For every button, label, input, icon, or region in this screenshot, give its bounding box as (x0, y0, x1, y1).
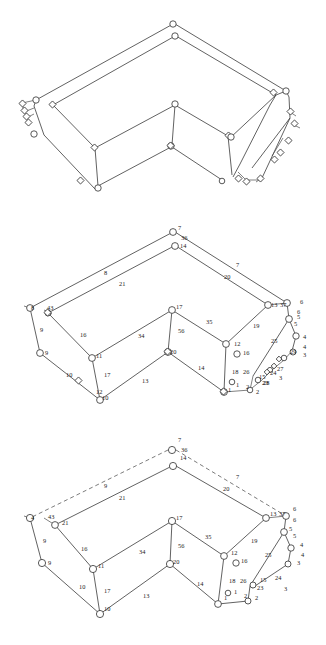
node-label-b10-8: 10 (104, 605, 110, 612)
node-label-b9-6: 9 (48, 559, 51, 566)
node-label-n14-2: 14 (180, 242, 187, 249)
node-label-b4-18: 4 (301, 551, 305, 558)
node-label-n20c-10: 20 (170, 348, 176, 355)
edge-label-56-9: 56 (178, 542, 184, 549)
edge-label-17-7: 17 (104, 587, 111, 594)
edge-label-3-19: 3 (279, 374, 282, 381)
edge-label-8-0: 8 (104, 269, 107, 276)
edges-bottom (24, 450, 291, 614)
edge-label-34-8: 34 (139, 548, 146, 555)
node-label-n13-27: 13 (271, 301, 277, 308)
node-label-n37-28: 37 (280, 301, 287, 308)
edge-label-26-16: 26 (243, 368, 249, 375)
edge-label-19-13: 19 (253, 322, 259, 329)
edge-label-20-3: 20 (224, 273, 230, 280)
edge-label-9-4: 9 (40, 326, 43, 333)
edge-label-24-19: 24 (275, 574, 282, 581)
edge-label-18-15: 18 (229, 577, 235, 584)
wireframe-view-bottom: 7361444321911101720121612152334455661337… (0, 428, 326, 645)
edge-label-16-6: 16 (81, 545, 87, 552)
node-label-b43-4: 43 (48, 513, 54, 520)
node-label-b37-25: 37 (279, 510, 286, 517)
edge-label-14-12: 14 (198, 364, 205, 371)
edge-label-25-14: 25 (265, 551, 271, 558)
node-label-b17-9: 17 (176, 514, 183, 521)
node-label-n9-5: 9 (45, 349, 48, 356)
node-label-n5r-23: 5 (294, 320, 297, 327)
figure-page: 7361484391012111720112161522324272934455… (0, 0, 326, 645)
edge-label-19-13: 19 (251, 537, 257, 544)
node-label-b6-22: 6 (293, 505, 296, 512)
edge-label-13-11: 13 (142, 377, 148, 384)
edge-label-21-1: 21 (119, 494, 125, 501)
edge-label-14-12: 14 (197, 580, 204, 587)
node-label-b14-2: 14 (180, 454, 187, 461)
edge-label-1-17: 1 (234, 588, 237, 595)
edge-label-35-10: 35 (206, 318, 212, 325)
node-label-n6r-25: 6 (300, 298, 303, 305)
wireframe-svg-bottom: 7361444321911101720121612152334455661337… (0, 428, 326, 645)
edge-label-25-14: 25 (271, 337, 277, 344)
node-label-b5b-21: 5 (293, 532, 296, 539)
node-label-b23-16: 23 (257, 584, 263, 591)
wireframe-svg-top (0, 0, 326, 215)
node-label-b36-1: 36 (181, 446, 187, 453)
node-label-n1-11: 1 (228, 386, 231, 393)
edge-label-7-2: 7 (236, 261, 240, 268)
wireframe-svg-middle: 7361484391012111720112161522324272934455… (0, 218, 326, 428)
edge-label-21-1: 21 (119, 280, 125, 287)
node-label-n4r-21: 4 (303, 333, 307, 340)
edge-label-3-20: 3 (284, 585, 287, 592)
node-label-n3r-20: 3 (303, 351, 306, 358)
edge-label-2-18: 2 (244, 592, 247, 599)
node-label-b5-20: 5 (289, 525, 292, 532)
edge-label-56-9: 56 (178, 327, 184, 334)
node-label-b11-7: 11 (98, 562, 104, 569)
edges-top (22, 24, 300, 189)
edge-label-26-16: 26 (240, 577, 246, 584)
node-label-n8L-3: 8 (31, 304, 34, 311)
wireframe-view-top (0, 0, 326, 215)
edges-middle (24, 232, 296, 400)
edge-labels-bottom: 921720910161734563513141925182612243 (43, 473, 287, 599)
edge-label-17-7: 17 (104, 371, 111, 378)
node-label-b4L-3: 4 (31, 514, 35, 521)
node-labels-middle: 7361484391012111720112161522324272934455… (31, 224, 307, 401)
edge-label-28-20: 28 (263, 379, 269, 386)
node-label-n7-0: 7 (178, 224, 182, 231)
node-label-b1-13: 1 (224, 594, 227, 601)
edge-label-9-4: 9 (43, 537, 46, 544)
node-label-b6b-23: 6 (293, 516, 296, 523)
node-label-n27-18: 27 (277, 365, 284, 372)
edge-label-35-10: 35 (205, 533, 211, 540)
edge-label-34-8: 34 (138, 332, 145, 339)
node-label-n17c-9: 17 (176, 303, 183, 310)
node-label-n12r-12: 12 (234, 340, 240, 347)
edge-label-18-15: 18 (232, 368, 238, 375)
node-label-b13-24: 13 (270, 510, 276, 517)
node-label-b15-15: 15 (260, 576, 266, 583)
edge-label-9-0: 9 (104, 482, 107, 489)
edge-label-7-2: 7 (236, 473, 240, 480)
node-label-b4b-19: 4 (300, 541, 304, 548)
edge-label-10-5: 10 (66, 371, 72, 378)
node-label-n43-4: 43 (47, 304, 53, 311)
node-label-n4r2-22: 4 (303, 343, 307, 350)
node-label-n2r-15: 2 (256, 388, 259, 395)
node-label-b3-17: 3 (297, 559, 300, 566)
edge-label-13-11: 13 (143, 592, 149, 599)
nodes-top (19, 21, 298, 191)
edge-label-1-17: 1 (236, 381, 239, 388)
edge-label-2-18: 2 (246, 383, 249, 390)
node-label-b2-14: 2 (255, 594, 258, 601)
node-label-b16-12: 16 (241, 557, 247, 564)
node-label-n12b-7: 12 (96, 388, 102, 395)
edge-label-16-6: 16 (80, 331, 86, 338)
node-label-n10-6: 10 (102, 394, 108, 401)
node-label-b12-11: 12 (231, 549, 237, 556)
node-labels-bottom: 7361444321911101720121612152334455661337 (31, 436, 305, 612)
node-label-n29-19: 29 (290, 348, 296, 355)
edge-label-20-3: 20 (223, 485, 229, 492)
node-label-n11-8: 11 (96, 352, 102, 359)
node-label-b7-0: 7 (178, 436, 182, 443)
